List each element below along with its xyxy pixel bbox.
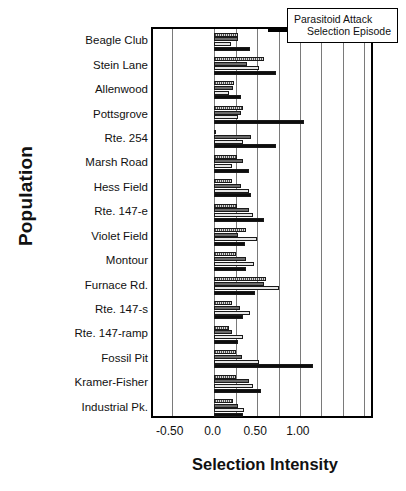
- bar-group: [153, 176, 371, 200]
- chart-figure: Population Beagle ClubStein LaneAllenwoo…: [0, 0, 406, 491]
- bar: [214, 81, 234, 85]
- y-axis-label-marsh-road: Marsh Road: [20, 156, 148, 168]
- bar: [214, 335, 242, 339]
- y-axis-label-industrial-pk: Industrial Pk.: [20, 401, 148, 413]
- bar: [214, 144, 275, 148]
- bar-group: [153, 371, 371, 395]
- bar-group: [153, 78, 371, 102]
- bar: [214, 140, 243, 144]
- bar: [214, 228, 246, 232]
- y-axis-label-hess-field: Hess Field: [20, 181, 148, 193]
- bar: [214, 213, 252, 217]
- bar: [214, 208, 249, 212]
- x-tick-label: -0.50: [156, 424, 183, 438]
- bar: [214, 277, 265, 281]
- bar: [214, 330, 232, 334]
- bar: [214, 130, 216, 134]
- y-axis-category-labels: Beagle ClubStein LaneAllenwoodPottsgrove…: [20, 28, 148, 417]
- bar: [214, 155, 236, 159]
- x-tick-label: 0.0: [204, 424, 221, 438]
- bar: [214, 379, 248, 383]
- bar: [214, 71, 275, 75]
- bar-group: [153, 102, 371, 126]
- y-axis-label-rte-147-s: Rte. 147-s: [20, 303, 148, 315]
- bar: [214, 193, 251, 197]
- legend-line-2: Selection Episode: [294, 25, 391, 37]
- bar: [214, 91, 229, 95]
- y-axis-label-fossil-pit: Fossil Pit: [20, 352, 148, 364]
- bar: [214, 364, 312, 368]
- bar: [214, 282, 264, 286]
- y-axis-label-montour: Montour: [20, 254, 148, 266]
- y-axis-label-rte-147-ramp: Rte. 147-ramp: [20, 327, 148, 339]
- bar: [214, 86, 233, 90]
- bar: [214, 267, 246, 271]
- bar: [214, 286, 279, 290]
- x-tick-label: 1.00: [286, 424, 309, 438]
- bar: [214, 375, 235, 379]
- bar-group: [153, 200, 371, 224]
- y-axis-label-pottsgrove: Pottsgrove: [20, 108, 148, 120]
- bar: [214, 120, 304, 124]
- y-axis-label-rte-254: Rte. 254: [20, 132, 148, 144]
- bar-group: [153, 347, 371, 371]
- bar: [214, 106, 242, 110]
- legend-box: Parasitoid Attack Selection Episode: [287, 8, 398, 43]
- bar: [214, 399, 233, 403]
- bar: [214, 311, 250, 315]
- y-axis-label-kramer-fisher: Kramer-Fisher: [20, 376, 148, 388]
- bar: [214, 115, 238, 119]
- bar: [214, 252, 235, 256]
- bar: [214, 242, 245, 246]
- y-axis-label-allenwood: Allenwood: [20, 83, 148, 95]
- bar: [214, 257, 246, 261]
- bar: [214, 164, 231, 168]
- bar: [214, 360, 258, 364]
- y-axis-label-furnace-rd: Furnace Rd.: [20, 279, 148, 291]
- bar: [214, 301, 231, 305]
- bar-group: [153, 127, 371, 151]
- y-axis-label-stein-lane: Stein Lane: [20, 59, 148, 71]
- bar-group: [153, 151, 371, 175]
- bar: [214, 233, 238, 237]
- bar: [214, 326, 229, 330]
- y-axis-label-beagle-club: Beagle Club: [20, 34, 148, 46]
- bar: [214, 66, 258, 70]
- x-tick-label: 0.50: [243, 424, 266, 438]
- bar: [214, 169, 249, 173]
- bar: [214, 355, 241, 359]
- y-axis-label-violet-field: Violet Field: [20, 230, 148, 242]
- bar: [214, 204, 236, 208]
- bar: [214, 37, 238, 41]
- plot-area: [151, 27, 373, 418]
- x-axis-tick-labels: -0.500.00.501.00: [151, 424, 373, 442]
- bar: [214, 42, 230, 46]
- bar: [214, 262, 253, 266]
- y-axis-label-rte-147-e: Rte. 147-e: [20, 205, 148, 217]
- bar: [214, 384, 252, 388]
- bar-group: [153, 225, 371, 249]
- bar: [214, 404, 238, 408]
- bar: [214, 389, 261, 393]
- bar-group: [153, 273, 371, 297]
- bar: [214, 135, 251, 139]
- bar: [214, 179, 232, 183]
- bar: [214, 62, 246, 66]
- bar: [214, 413, 242, 417]
- bar-group: [153, 249, 371, 273]
- bar: [214, 33, 238, 37]
- bar: [214, 306, 240, 310]
- bar: [214, 159, 243, 163]
- bar: [214, 340, 238, 344]
- bar-group: [153, 322, 371, 346]
- bar: [214, 218, 264, 222]
- bar: [214, 95, 240, 99]
- bar: [214, 47, 250, 51]
- bar-group: [153, 298, 371, 322]
- bar: [214, 111, 240, 115]
- bar-group: [153, 396, 371, 420]
- bar: [214, 350, 235, 354]
- bar: [214, 291, 254, 295]
- x-axis-title: Selection Intensity: [120, 455, 406, 474]
- bar: [214, 184, 240, 188]
